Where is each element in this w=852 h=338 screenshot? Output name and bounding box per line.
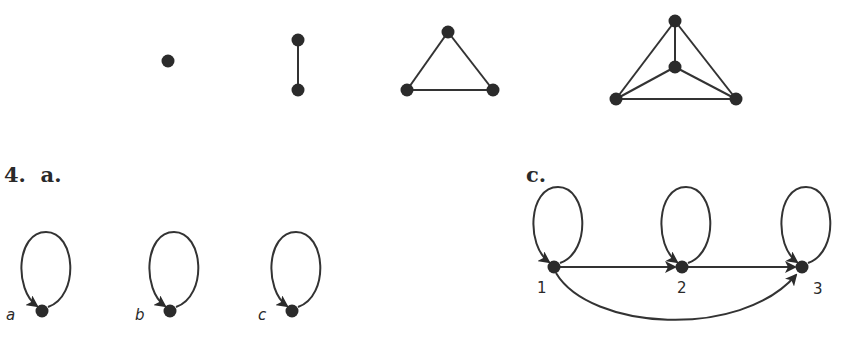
vertex [36,305,49,318]
loop-edge [21,232,70,307]
edge [675,67,736,99]
vertex-label: c [258,306,267,324]
vertex-b-group: b [135,232,198,324]
graph-k2 [292,34,305,97]
vertex-label: 3 [813,280,823,298]
loop-edge-1 [533,187,582,263]
edge [616,21,675,99]
vertex-1 [548,261,561,274]
vertex [292,84,305,97]
vertex [730,93,743,106]
edge [448,32,493,90]
vertex-3 [796,261,809,274]
loop-edge-3 [781,187,830,263]
vertex [610,93,623,106]
section-4a-graph: a b c [6,232,320,324]
graph-k4 [610,15,743,106]
vertex [401,84,414,97]
vertex-c-group: c [258,232,320,324]
graph-k1 [162,55,175,68]
graph-k3 [401,26,500,97]
vertex [669,61,682,74]
edge-1-to-3 [556,273,796,320]
vertex-label: b [135,306,145,324]
graph-diagram: a b c 1 2 3 [0,0,852,338]
vertex-label: 1 [537,279,547,297]
loop-edge-2 [661,187,710,263]
section-c-graph: 1 2 3 [533,187,830,320]
edge [675,21,736,99]
vertex [292,34,305,47]
vertex-label: a [6,306,15,324]
edge [616,67,675,99]
vertex-label: 2 [677,279,687,297]
vertex [442,26,455,39]
loop-edge [271,232,320,307]
vertex-2 [676,261,689,274]
vertex [164,305,177,318]
vertex [669,15,682,28]
vertex [286,305,299,318]
loop-edge [149,232,198,307]
vertex-a-group: a [6,232,70,324]
vertex [162,55,175,68]
edge [407,32,448,90]
vertex [487,84,500,97]
